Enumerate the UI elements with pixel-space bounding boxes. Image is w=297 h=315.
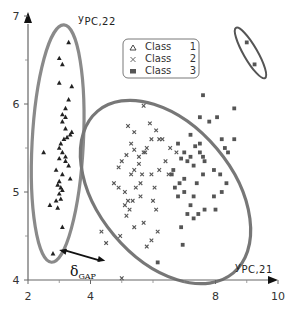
triangle-marker-icon [60, 150, 65, 154]
x-marker-icon [132, 168, 136, 172]
triangle-marker-icon [41, 150, 46, 154]
square-marker-icon [218, 173, 222, 177]
triangle-marker-icon [63, 126, 68, 130]
y-tick-label: 4 [13, 274, 20, 287]
square-marker-icon [215, 115, 219, 119]
square-marker-icon [185, 159, 189, 163]
square-marker-icon [185, 212, 189, 216]
square-marker-icon [201, 155, 205, 159]
x-tick-label: 8 [212, 290, 219, 303]
square-marker-icon [182, 190, 186, 194]
square-marker-icon [225, 181, 229, 185]
square-marker-icon [189, 203, 193, 207]
x-marker-icon [161, 137, 165, 141]
square-marker-icon [220, 137, 224, 141]
square-marker-icon [223, 146, 227, 150]
x-marker-icon [175, 151, 179, 155]
square-marker-icon [201, 93, 205, 97]
square-marker-icon [178, 181, 182, 185]
gap-arrow-line [64, 250, 100, 261]
square-marker-icon [193, 144, 197, 148]
x-marker-icon [126, 124, 130, 128]
triangle-marker-icon [68, 176, 73, 180]
x-marker-icon [126, 199, 130, 203]
square-marker-icon [171, 168, 175, 172]
gap-label: δGAP [70, 263, 97, 281]
x-marker-icon [128, 208, 132, 212]
triangle-marker-icon [60, 112, 65, 116]
square-marker-icon [203, 159, 207, 163]
square-marker-icon [232, 107, 236, 111]
triangle-marker-icon [69, 84, 74, 88]
square-marker-icon [176, 142, 180, 146]
square-marker-icon [226, 151, 230, 155]
square-marker-icon [182, 177, 186, 181]
triangle-marker-icon [60, 172, 65, 176]
triangle-marker-icon [60, 119, 65, 123]
triangle-marker-icon [63, 154, 68, 158]
cluster-ellipse [230, 24, 271, 81]
x-marker-icon [164, 159, 168, 163]
x-marker-icon [123, 203, 127, 207]
square-marker-icon [253, 63, 257, 67]
square-marker-icon [245, 41, 249, 45]
y-tick-label: 6 [13, 98, 20, 111]
plot-area: 248104567 yPC,22 yPC,21 Class1Class2Clas… [0, 0, 297, 315]
x-marker-icon [142, 221, 146, 225]
x-marker-icon [104, 241, 108, 245]
triangle-marker-icon [57, 80, 62, 84]
x-marker-icon [129, 173, 133, 177]
x-marker-icon [154, 208, 158, 212]
x-marker-icon [145, 245, 149, 249]
triangle-marker-icon [60, 62, 65, 66]
triangle-marker-icon [57, 56, 62, 60]
triangle-marker-icon [57, 145, 62, 149]
x-marker-icon [145, 146, 149, 150]
legend-label: Class [145, 41, 171, 52]
square-marker-icon [214, 208, 218, 212]
square-marker-icon [156, 261, 160, 265]
x-marker-icon [150, 173, 154, 177]
x-marker-icon [154, 129, 158, 133]
y-axis-arrow-icon [24, 12, 32, 23]
x-axis-label: yPC,21 [235, 261, 273, 275]
triangle-marker-icon [58, 196, 63, 200]
x-marker-icon [139, 181, 143, 185]
square-marker-icon [192, 217, 196, 221]
x-marker-icon [100, 230, 104, 234]
square-marker-icon [179, 157, 183, 161]
square-marker-icon [212, 195, 216, 199]
square-marker-icon [192, 195, 196, 199]
triangle-marker-icon [55, 205, 60, 209]
arrowhead-right-icon [97, 256, 105, 262]
legend-label: Class [145, 65, 171, 76]
x-marker-icon [117, 166, 121, 170]
x-marker-icon [142, 104, 146, 108]
square-marker-icon [198, 115, 202, 119]
x-tick-label: 2 [25, 290, 32, 303]
triangle-marker-icon [66, 163, 71, 167]
x-marker-icon [150, 137, 154, 141]
square-marker-icon [203, 208, 207, 212]
square-marker-icon [189, 133, 193, 137]
x-marker-icon [125, 153, 129, 157]
x-marker-icon [148, 122, 152, 126]
x-marker-icon [168, 146, 172, 150]
x-marker-icon [140, 173, 144, 177]
x-marker-icon [134, 186, 138, 190]
x-marker-icon [137, 155, 141, 159]
square-marker-icon [182, 151, 186, 155]
legend-label: Class [145, 53, 171, 64]
x-marker-icon [129, 142, 133, 146]
x-marker-icon [150, 239, 154, 243]
x-marker-icon [132, 130, 136, 134]
triangle-marker-icon [66, 40, 71, 44]
x-marker-icon [137, 162, 141, 166]
square-marker-icon [207, 120, 211, 124]
triangle-marker-icon [60, 225, 65, 229]
y-tick-label: 5 [13, 186, 20, 199]
square-marker-icon [130, 69, 136, 74]
square-marker-icon [189, 155, 193, 159]
square-marker-icon [192, 164, 196, 168]
x-marker-icon [125, 214, 129, 218]
